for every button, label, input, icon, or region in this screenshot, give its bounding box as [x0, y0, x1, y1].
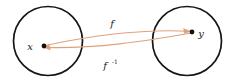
forward-map-arrow	[47, 31, 189, 45]
point-x-label: x	[27, 41, 33, 52]
point-y-dot	[190, 30, 195, 35]
codomain-set-circle	[153, 7, 222, 76]
inverse-map-arrow	[45, 33, 190, 47]
inverse-map-label-base: f	[102, 60, 109, 71]
inverse-map-label-exponent: -1	[112, 58, 118, 65]
diagram-canvas: x y f f -1	[0, 0, 234, 83]
forward-map-label: f	[109, 18, 116, 29]
bijection-inverse-function-diagram: x y f f -1	[0, 0, 234, 83]
point-y-label: y	[197, 28, 204, 39]
inverse-map-label: f -1	[102, 58, 118, 71]
domain-set-circle	[14, 7, 83, 76]
point-x-dot	[42, 44, 47, 49]
